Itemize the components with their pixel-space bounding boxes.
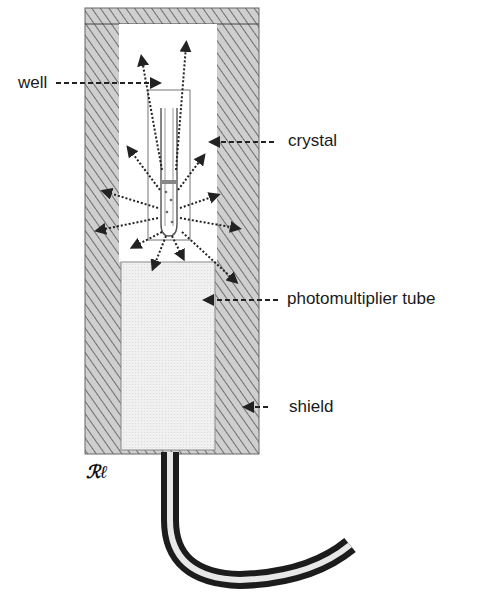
- label-well: well: [18, 74, 47, 91]
- signature: ℛℓ: [86, 462, 108, 482]
- label-shield: shield: [289, 398, 333, 415]
- label-photomultiplier-tube: photomultiplier tube: [287, 290, 435, 307]
- crystal: [119, 24, 217, 262]
- label-crystal: crystal: [288, 132, 337, 149]
- photomultiplier-tube: [121, 262, 215, 450]
